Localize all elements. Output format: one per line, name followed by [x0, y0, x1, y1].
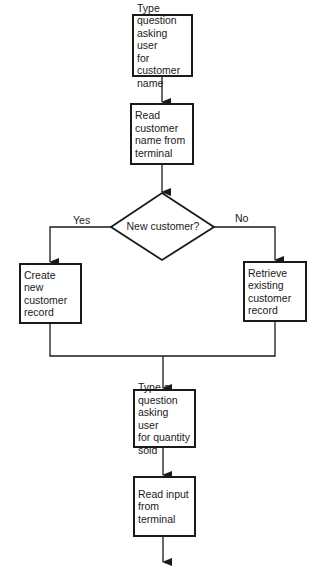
node-text: Read input from terminal: [138, 488, 189, 526]
node-read-customer-name: Read customer name from terminal: [130, 103, 194, 165]
node-text: Retrieve existing customer record: [248, 267, 291, 317]
node-create-customer-record: Create new customer record: [19, 263, 82, 324]
node-text: Read customer name from terminal: [135, 109, 185, 159]
node-text: Type question asking user for customer n…: [137, 2, 188, 90]
node-ask-customer-name: Type question asking user for customer n…: [132, 14, 193, 77]
node-read-input: Read input from terminal: [133, 476, 196, 537]
branch-label-yes: Yes: [73, 214, 90, 226]
node-text: Type a question asking user for quantity…: [138, 381, 191, 456]
node-retrieve-customer-record: Retrieve existing customer record: [243, 261, 307, 322]
decision-new-customer: New customer?: [116, 220, 210, 232]
node-ask-quantity-sold: Type a question asking user for quantity…: [133, 389, 196, 448]
node-text: Create new customer record: [24, 269, 77, 319]
branch-label-no: No: [235, 212, 248, 224]
